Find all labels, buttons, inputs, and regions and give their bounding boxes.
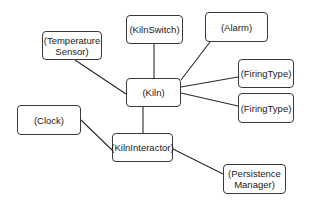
node-kiln[interactable]: (Kiln)	[126, 78, 181, 107]
node-label: (KilnSwitch)	[129, 24, 179, 35]
node-clock[interactable]: (Clock)	[17, 105, 81, 135]
node-firing-type-2[interactable]: (FiringType)	[238, 93, 294, 123]
node-label: (Persistence Manager)	[226, 168, 283, 190]
node-label: (Clock)	[34, 115, 64, 126]
edge-alarm-kiln	[181, 42, 210, 80]
node-temperature-sensor[interactable]: (Temperature Sensor)	[42, 31, 102, 60]
node-label: (Alarm)	[221, 22, 252, 33]
object-diagram: (Temperature Sensor) (KilnSwitch) (Alarm…	[0, 0, 309, 205]
node-label: (FiringType)	[241, 68, 292, 79]
node-kiln-switch[interactable]: (KilnSwitch)	[126, 15, 183, 44]
node-kiln-interactor[interactable]: (KilnInteractor)	[112, 133, 173, 162]
node-firing-type-1[interactable]: (FiringType)	[238, 59, 294, 88]
edge-kiln-firing-type-1	[181, 77, 238, 87]
node-label: (KilnInteractor)	[111, 142, 173, 153]
node-label: (FiringType)	[241, 103, 292, 114]
edge-temperature-sensor-kiln	[75, 60, 126, 94]
node-alarm[interactable]: (Alarm)	[205, 12, 268, 42]
node-label: (Kiln)	[142, 87, 164, 98]
edge-clock-kiln-interactor	[81, 120, 112, 150]
edge-kiln-interactor-persistence-manager	[173, 149, 223, 174]
node-persistence-manager[interactable]: (Persistence Manager)	[223, 164, 286, 194]
node-label: (Temperature Sensor)	[44, 35, 101, 57]
edge-kiln-firing-type-2	[181, 93, 238, 106]
